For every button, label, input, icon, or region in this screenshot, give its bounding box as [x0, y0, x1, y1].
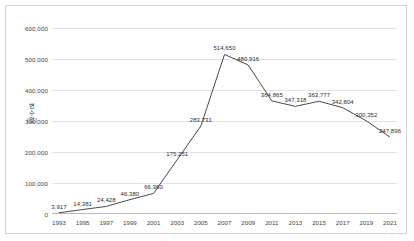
y-tick-label: 0 [0, 211, 48, 218]
data-label: 3,917 [51, 204, 66, 210]
data-label: 46,380 [121, 191, 140, 197]
data-label: 342,804 [332, 99, 354, 105]
data-label: 480,916 [237, 56, 259, 62]
data-label: 14,381 [73, 201, 92, 207]
data-label: 247,896 [379, 128, 401, 134]
data-label: 363,777 [308, 92, 330, 98]
data-label: 283,731 [190, 117, 212, 123]
y-tick-label: 500,000 [0, 56, 48, 63]
y-tick-label: 300,000 [0, 118, 48, 125]
data-label: 24,428 [97, 197, 116, 203]
data-label: 300,352 [355, 112, 377, 118]
data-label: 347,318 [284, 97, 306, 103]
y-tick-label: 400,000 [0, 87, 48, 94]
line-series [52, 28, 397, 214]
x-tick-label: 2021 [370, 219, 410, 226]
chart-container: 변수(명) 0100,000200,000300,000400,000500,0… [5, 5, 407, 234]
data-label: 514,650 [213, 45, 235, 51]
plot-area: 0100,000200,000300,000400,000500,000600,… [52, 28, 397, 214]
y-tick-label: 100,000 [0, 180, 48, 187]
data-label: 66,360 [144, 184, 163, 190]
y-tick-label: 200,000 [0, 149, 48, 156]
data-label: 175,251 [166, 151, 188, 157]
y-tick-label: 600,000 [0, 25, 48, 32]
data-label: 364,865 [261, 92, 283, 98]
